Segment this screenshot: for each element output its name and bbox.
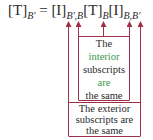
inner-line-4: are xyxy=(79,76,129,89)
exterior-annotation: The exterior subscripts are the same xyxy=(69,103,140,136)
inner-highlight: interior xyxy=(79,50,129,63)
outer-line-3: the same xyxy=(69,125,140,136)
inner-line-3: subscripts xyxy=(79,63,129,76)
inner-line-5: the same xyxy=(79,89,129,102)
outer-line-2: subscripts are xyxy=(69,114,140,125)
outer-line-1: The exterior xyxy=(69,103,140,114)
inner-line-1: The xyxy=(79,37,129,50)
interior-annotation: The interior subscripts are the same xyxy=(79,37,129,102)
